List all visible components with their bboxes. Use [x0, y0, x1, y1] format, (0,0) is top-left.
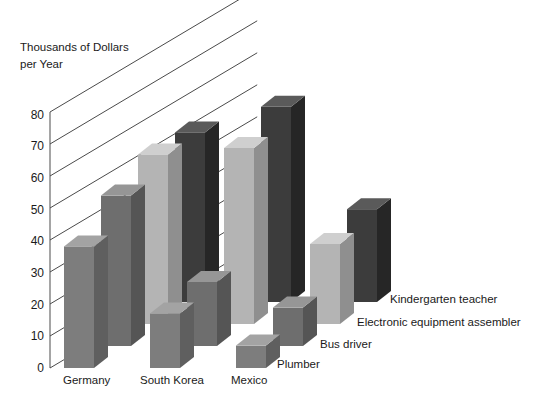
y-axis-title-line1: Thousands of Dollars: [20, 41, 129, 53]
bar-side-face: [168, 143, 182, 324]
series-label-kindergarten-teacher: Kindergarten teacher: [390, 293, 498, 305]
y-tick-30: 30: [31, 266, 45, 280]
bar-side-face: [180, 303, 194, 368]
bar-side-face: [94, 235, 108, 368]
chart-container: 0 10 20 30 40 50 60 70 80 Thousands of D…: [0, 0, 538, 403]
y-tick-10: 10: [31, 329, 45, 343]
y-tick-60: 60: [31, 171, 45, 185]
bar-plumber-south-korea: [150, 303, 194, 368]
series-label-electronic-equipment-assembler: Electronic equipment assembler: [357, 316, 521, 328]
bar-side-face: [340, 233, 354, 324]
series-label-bus-driver: Bus driver: [320, 338, 372, 350]
bar-side-face: [131, 185, 145, 346]
category-label-mexico: Mexico: [231, 374, 267, 386]
category-label-germany: Germany: [63, 374, 111, 386]
y-tick-labels: 0 10 20 30 40 50 60 70 80: [31, 108, 45, 375]
bar-front-face: [236, 346, 266, 368]
bar-side-face: [254, 137, 268, 324]
bar-front-face: [64, 246, 94, 368]
category-label-south-korea: South Korea: [140, 374, 205, 386]
y-tick-0: 0: [37, 361, 44, 375]
y-tick-50: 50: [31, 203, 45, 217]
bar-front-face: [150, 314, 180, 368]
y-tick-20: 20: [31, 298, 45, 312]
y-tick-70: 70: [31, 139, 45, 153]
y-tick-80: 80: [31, 108, 45, 122]
bar-plumber-germany: [64, 235, 108, 368]
y-axis-title-line2: per Year: [20, 58, 63, 70]
bar-side-face: [217, 271, 231, 346]
bar-chart-3d: 0 10 20 30 40 50 60 70 80 Thousands of D…: [0, 0, 538, 403]
bar-side-face: [291, 96, 305, 302]
bar-side-face: [377, 198, 391, 302]
category-labels: Germany South Korea Mexico: [63, 374, 267, 386]
y-tick-40: 40: [31, 234, 45, 248]
series-label-plumber: Plumber: [277, 358, 320, 370]
